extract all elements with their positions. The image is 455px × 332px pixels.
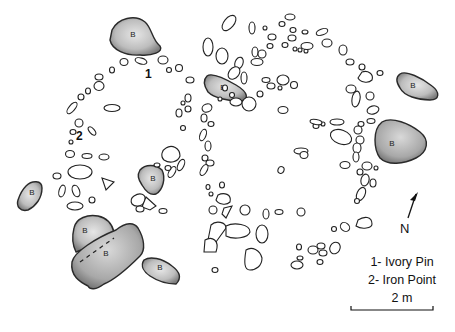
find-marker-1: 1	[145, 67, 152, 81]
boulder: B	[138, 166, 164, 195]
north-label: N	[400, 221, 409, 236]
boulder-label: B	[103, 249, 108, 258]
boulder: B	[397, 73, 438, 100]
boulder-label: B	[130, 30, 135, 39]
boulder-label: B	[29, 188, 34, 197]
find-marker-2: 2	[76, 129, 83, 143]
boulder-label: B	[157, 263, 162, 272]
arrowhead-icon	[410, 192, 418, 201]
boulder: B	[142, 258, 179, 284]
boulder: B	[110, 18, 161, 55]
boulder-label: B	[389, 139, 394, 148]
north-arrow: N	[400, 192, 418, 236]
boulder-label: B	[150, 174, 155, 183]
scale-label: 2 m	[352, 289, 452, 307]
legend-item-ivory-pin: 1- Ivory Pin	[352, 253, 452, 271]
legend: 1- Ivory Pin 2- Iron Point 2 m	[352, 253, 452, 307]
boulder-label: B	[82, 226, 87, 235]
boulder: B	[17, 182, 42, 211]
boulder: B	[375, 120, 426, 163]
legend-item-iron-point: 2- Iron Point	[352, 271, 452, 289]
boulder-label: B	[410, 81, 415, 90]
